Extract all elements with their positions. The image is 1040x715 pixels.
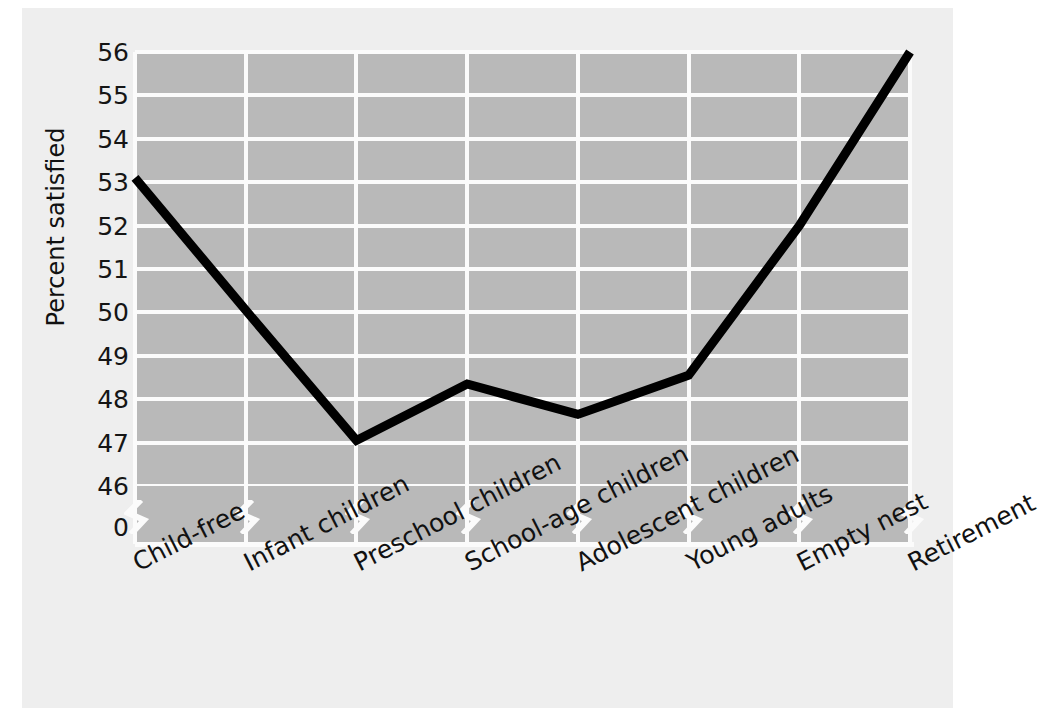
y-axis-tick-label: 51 bbox=[83, 257, 129, 282]
plot-area-wrapper bbox=[135, 52, 910, 486]
y-axis-tick-label: 53 bbox=[83, 170, 129, 195]
y-axis-tick-label: 48 bbox=[83, 387, 129, 412]
data-line-series bbox=[135, 52, 910, 486]
y-axis-tick-label: 54 bbox=[83, 126, 129, 151]
y-axis-tick-label: 55 bbox=[83, 83, 129, 108]
axis-break-mark bbox=[124, 500, 150, 534]
y-axis-tick-label: 52 bbox=[83, 213, 129, 238]
y-axis-tick-label: 49 bbox=[83, 343, 129, 368]
figure-panel: Percent satisfied 5655545352515049484746… bbox=[22, 8, 953, 708]
y-axis-tick-label: 56 bbox=[83, 40, 129, 65]
y-axis-tick-label: 46 bbox=[83, 474, 129, 499]
y-axis-tick-label: 50 bbox=[83, 300, 129, 325]
y-axis-tick-labels: 5655545352515049484746 bbox=[73, 52, 129, 486]
y-axis-tick-label: 47 bbox=[83, 430, 129, 455]
series-percent-satisfied bbox=[135, 52, 910, 440]
y-axis-title: Percent satisfied bbox=[42, 97, 70, 357]
y-axis-zero-label: 0 bbox=[73, 515, 129, 540]
